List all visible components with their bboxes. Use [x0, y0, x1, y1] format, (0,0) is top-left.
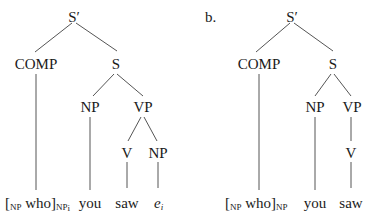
node-np-subject-b: NP: [305, 99, 324, 115]
node-comp-a: COMP: [15, 56, 58, 72]
leaf-trace-a: ei: [154, 195, 164, 212]
leaf-saw-a: saw: [115, 195, 138, 211]
syntax-tree-diagram: S′ COMP S NP VP V NP [NP who]NPi you saw…: [0, 0, 367, 216]
leaf-you-a: you: [79, 195, 102, 211]
edge-s-vp-b: [334, 74, 351, 96]
node-sbar-b: S′: [286, 9, 298, 25]
edge-s-np-b: [315, 74, 331, 96]
node-comp-b: COMP: [238, 56, 281, 72]
edge-s-vp-a: [117, 74, 143, 96]
edge-sbar-s-a: [76, 23, 117, 51]
edge-vp-v-a: [128, 117, 141, 141]
leaf-comp-a: [NP who]NPi: [5, 195, 71, 213]
tree-b: b. S′ COMP S NP VP V [NP who]NP you saw: [205, 9, 363, 212]
edge-sbar-comp-b: [256, 23, 290, 52]
leaf-saw-b: saw: [339, 195, 362, 211]
edge-s-np-a: [93, 74, 114, 96]
tree-b-label: b.: [205, 9, 216, 25]
edge-vp-np-a: [144, 117, 157, 141]
node-sbar-a: S′: [68, 9, 80, 25]
node-v-a: V: [122, 145, 133, 161]
leaf-you-b: you: [304, 195, 327, 211]
node-s-a: S: [112, 56, 120, 72]
node-vp-b: VP: [342, 99, 361, 115]
leaf-comp-b: [NP who]NP: [225, 195, 288, 212]
node-s-b: S: [329, 56, 337, 72]
node-np-object-a: NP: [148, 145, 167, 161]
tree-a: S′ COMP S NP VP V NP [NP who]NPi you saw…: [5, 9, 168, 213]
edge-sbar-comp-a: [35, 23, 72, 52]
node-np-subject-a: NP: [80, 99, 99, 115]
edge-sbar-s-b: [294, 23, 333, 51]
node-vp-a: VP: [133, 99, 152, 115]
node-v-b: V: [346, 145, 357, 161]
